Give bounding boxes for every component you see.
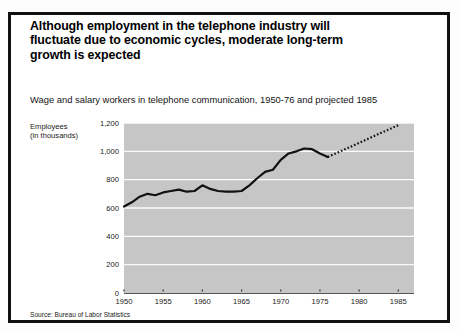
x-tick-label-1960: 1960	[194, 297, 211, 306]
chart-svg: 02004006008001,0001,20019501955196019651…	[0, 0, 462, 330]
x-tick-label-1965: 1965	[233, 297, 250, 306]
x-tick-label-1970: 1970	[272, 297, 289, 306]
y-tick-label-400: 400	[106, 232, 119, 241]
x-tick-label-1975: 1975	[311, 297, 328, 306]
source-note: Source: Bureau of Labor Statistics	[30, 311, 130, 318]
x-tick-label-1985: 1985	[390, 297, 407, 306]
y-tick-label-800: 800	[106, 175, 119, 184]
x-tick-label-1950: 1950	[116, 297, 133, 306]
x-tick-label-1955: 1955	[155, 297, 172, 306]
line-chart: 02004006008001,0001,20019501955196019651…	[0, 0, 462, 330]
y-tick-label-600: 600	[106, 204, 119, 213]
figure-page: Although employment in the telephone ind…	[0, 0, 462, 330]
y-tick-label-1200: 1,200	[100, 119, 119, 128]
y-tick-label-1000: 1,000	[100, 147, 119, 156]
y-tick-label-200: 200	[106, 260, 119, 269]
x-tick-label-1980: 1980	[351, 297, 368, 306]
